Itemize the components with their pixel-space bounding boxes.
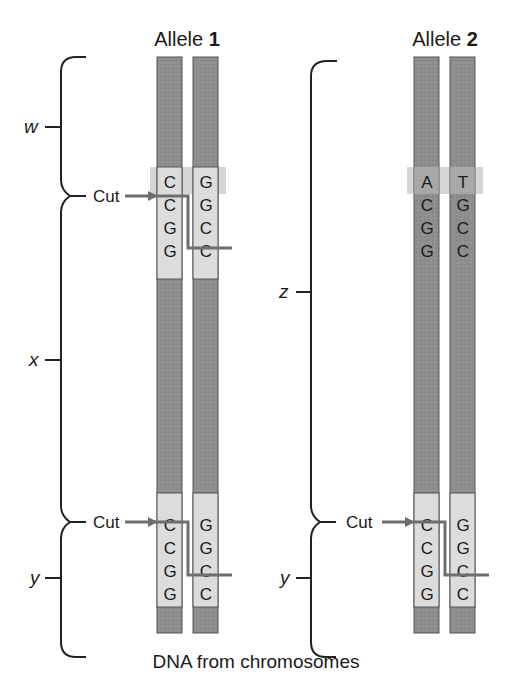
cut-label: Cut [93, 187, 120, 206]
svg-text:G: G [199, 173, 212, 192]
svg-text:G: G [420, 562, 433, 581]
brace-x-icon [61, 196, 86, 522]
svg-text:G: G [456, 516, 469, 535]
svg-text:G: G [163, 219, 176, 238]
svg-text:C: C [421, 516, 433, 535]
diagram-caption: DNA from chromosomes [153, 651, 360, 672]
allele-1-label: Allele 1 [154, 28, 220, 50]
svg-text:C: C [200, 219, 212, 238]
svg-text:C: C [421, 196, 433, 215]
allele-2-braces [296, 61, 337, 657]
brace-y-icon [311, 522, 336, 657]
svg-text:G: G [163, 585, 176, 604]
segment-label-z: z [278, 281, 289, 302]
svg-text:C: C [457, 219, 469, 238]
svg-text:G: G [420, 585, 433, 604]
svg-text:C: C [164, 516, 176, 535]
svg-text:T: T [458, 173, 468, 192]
svg-text:G: G [420, 242, 433, 261]
svg-text:G: G [199, 539, 212, 558]
svg-text:G: G [199, 516, 212, 535]
brace-y-icon [61, 522, 86, 657]
svg-text:C: C [164, 173, 176, 192]
svg-text:C: C [200, 242, 212, 261]
allele-2-label: Allele 2 [412, 28, 478, 50]
svg-text:G: G [199, 196, 212, 215]
svg-text:C: C [457, 242, 469, 261]
segment-label-w: w [24, 116, 39, 137]
svg-text:G: G [456, 196, 469, 215]
segment-label-y-allele-2: y [278, 567, 291, 588]
svg-text:G: G [456, 539, 469, 558]
svg-text:C: C [200, 562, 212, 581]
cut-label: Cut [93, 513, 120, 532]
svg-text:C: C [457, 585, 469, 604]
svg-text:C: C [457, 562, 469, 581]
svg-text:C: C [164, 196, 176, 215]
svg-text:C: C [164, 539, 176, 558]
svg-text:G: G [163, 562, 176, 581]
segment-label-x: x [28, 349, 40, 370]
segment-label-y: y [28, 567, 41, 588]
brace-w-icon [61, 57, 86, 196]
svg-text:A: A [421, 173, 433, 192]
brace-z-icon [311, 61, 337, 522]
svg-text:C: C [200, 585, 212, 604]
svg-text:G: G [420, 219, 433, 238]
cut-label: Cut [346, 513, 373, 532]
allele-1-braces [45, 57, 86, 657]
svg-text:C: C [421, 539, 433, 558]
svg-text:G: G [163, 242, 176, 261]
dna-diagram: Allele 1 Allele 2 C C G G G G C C C C G … [0, 0, 506, 682]
